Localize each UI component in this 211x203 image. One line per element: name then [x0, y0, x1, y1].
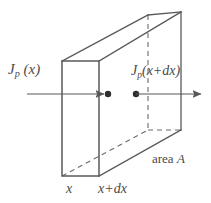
- slab-diagram-svg: [0, 0, 211, 203]
- outgoing-current-subscript: p: [137, 70, 142, 80]
- top-left-diagonal-edge: [62, 15, 148, 61]
- front-face-group: [62, 61, 99, 176]
- incoming-current-dot: [105, 91, 111, 97]
- physics-figure: Jp (x) Jp(x+dx) x x+dx area A: [0, 0, 211, 203]
- front-slab-rect: [62, 61, 99, 176]
- top-face-group: [62, 12, 181, 61]
- area-label: area A: [152, 152, 185, 165]
- outgoing-current-label: Jp(x+dx): [131, 64, 180, 78]
- area-label-prefix: area: [152, 151, 174, 166]
- left-position-text: x: [66, 181, 72, 196]
- incoming-current-argument: (x): [24, 61, 41, 77]
- left-position-label: x: [66, 182, 72, 196]
- hidden-bottom-left-diagonal: [62, 130, 148, 176]
- outgoing-current-arrow-group: [133, 91, 201, 97]
- right-position-text: x+dx: [98, 181, 127, 196]
- right-position-label: x+dx: [98, 182, 127, 196]
- incoming-current-symbol: J: [8, 61, 15, 77]
- incoming-current-label: Jp (x): [8, 62, 40, 77]
- area-label-symbol: A: [177, 151, 185, 166]
- outgoing-current-argument: (x+dx): [142, 63, 180, 78]
- incoming-current-subscript: p: [15, 68, 20, 79]
